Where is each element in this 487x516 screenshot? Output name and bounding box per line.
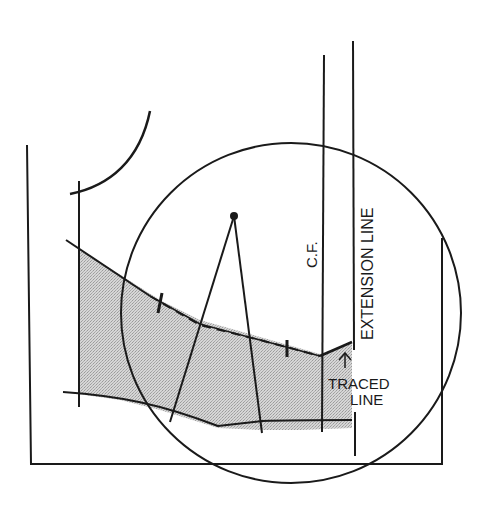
traced-label-line1: TRACED <box>328 375 390 392</box>
traced-label-line2: LINE <box>350 391 383 408</box>
center-front-label: C.F. <box>303 241 320 268</box>
pattern-diagram: C.F. EXTENSION LINE TRACED LINE <box>0 0 487 516</box>
pivot-point <box>230 212 238 220</box>
extension-line-upper <box>353 41 354 350</box>
diagram-canvas: C.F. EXTENSION LINE TRACED LINE <box>0 0 487 516</box>
extension-line-label: EXTENSION LINE <box>359 208 376 340</box>
neckline-curve <box>70 111 150 194</box>
